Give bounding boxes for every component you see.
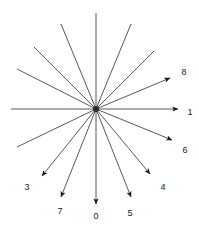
ray-label-8: 8 bbox=[181, 68, 186, 77]
ray-plain bbox=[61, 24, 96, 109]
ray-labeled-5 bbox=[96, 109, 131, 197]
ray-label-5: 5 bbox=[127, 209, 132, 218]
ray-labeled-3 bbox=[42, 109, 96, 176]
ray-canvas bbox=[0, 0, 199, 233]
ray-label-4: 4 bbox=[160, 183, 165, 192]
ray-plain bbox=[34, 47, 96, 109]
ray-label-6: 6 bbox=[182, 146, 187, 155]
ray-labeled-7 bbox=[61, 109, 96, 197]
ray-label-7: 7 bbox=[57, 207, 62, 216]
ray-plain bbox=[96, 51, 154, 109]
ray-label-1: 1 bbox=[187, 108, 192, 117]
ray-labeled-4 bbox=[96, 109, 150, 174]
ray-diagram-figure: 18370546 bbox=[0, 0, 199, 233]
ray-label-0: 0 bbox=[93, 212, 98, 221]
ray-labeled-6 bbox=[96, 109, 172, 140]
center-hub-dot bbox=[93, 106, 99, 112]
ray-label-3: 3 bbox=[24, 183, 29, 192]
ray-plain bbox=[17, 109, 96, 147]
ray-plain bbox=[17, 69, 96, 109]
